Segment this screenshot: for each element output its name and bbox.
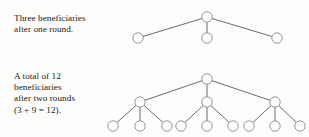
tree-edge xyxy=(212,18,272,36)
tree-node xyxy=(108,121,118,131)
tree-node xyxy=(162,121,172,131)
tree-node xyxy=(228,121,238,131)
tree-edge xyxy=(211,106,229,123)
tree-node xyxy=(176,121,186,131)
tree-node xyxy=(295,121,305,131)
tree-edge xyxy=(117,105,136,122)
one-round-tree xyxy=(133,12,282,43)
tree-edge xyxy=(253,106,271,123)
tree-edge xyxy=(144,105,163,122)
two-round-tree xyxy=(108,74,305,131)
tree-root-node xyxy=(202,12,212,22)
tree-node xyxy=(272,33,282,43)
tree-edge xyxy=(145,81,202,101)
tree-node xyxy=(133,33,143,43)
tree-edge xyxy=(212,81,270,101)
tree-edge xyxy=(185,106,203,123)
tree-node xyxy=(270,97,280,107)
tree-node xyxy=(202,33,212,43)
tree-diagrams-canvas xyxy=(0,0,309,137)
tree-node xyxy=(202,121,212,131)
tree-node xyxy=(202,97,212,107)
diagram-page: Three beneficiaries after one round. A t… xyxy=(0,0,309,137)
tree-node xyxy=(244,121,254,131)
tree-root-node xyxy=(202,74,212,84)
tree-edge xyxy=(279,106,296,123)
tree-node xyxy=(270,121,280,131)
tree-node xyxy=(135,97,145,107)
tree-edge xyxy=(143,19,202,37)
tree-node xyxy=(135,121,145,131)
